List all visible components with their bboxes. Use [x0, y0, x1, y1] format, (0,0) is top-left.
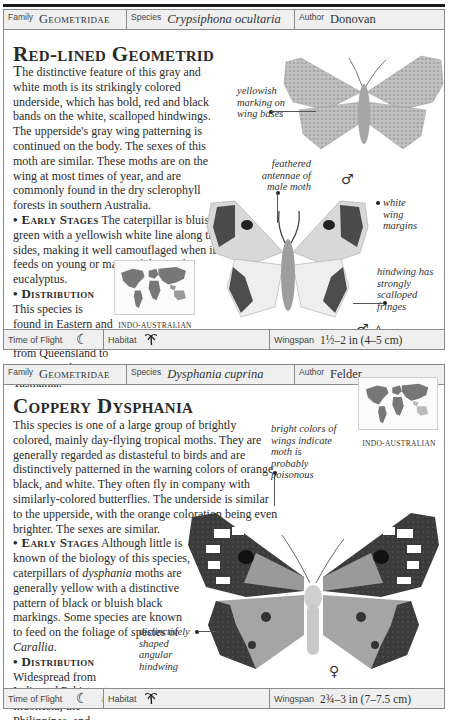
annotation-leader-line — [353, 303, 383, 304]
time-of-flight-label: Time of Flight — [8, 694, 62, 704]
moth-upperside-illustration — [281, 54, 446, 154]
annotation-angular-hindwing: distinctively shaped angular hindwing — [139, 626, 199, 672]
early-stages-heading: Early Stages — [21, 535, 98, 550]
palm-tree-icon — [145, 332, 157, 348]
intro-paragraph: The distinctive feature of this gray and… — [13, 64, 228, 213]
wingspan-value: 2¾–3 in (7–7.5 cm) — [320, 693, 411, 705]
top-rule — [3, 4, 445, 7]
habitat-cell: Habitat — [104, 330, 270, 349]
moth-dysphania-illustration — [186, 505, 441, 675]
author-label: Author — [299, 367, 324, 377]
time-of-flight-label: Time of Flight — [8, 335, 62, 345]
author-label: Author — [299, 12, 324, 22]
species-title: Coppery Dysphania — [13, 394, 193, 419]
annotation-bright-colors: bright colors of wings indicate moth is … — [271, 423, 339, 481]
species-label: Species — [131, 367, 161, 377]
wingspan-label: Wingspan — [274, 694, 314, 704]
time-of-flight-cell: Time of Flight ☾ ☼ — [4, 689, 104, 708]
distribution-map — [358, 377, 438, 430]
annotation-white-margins: white wing margins — [383, 197, 423, 232]
author-cell: Author Donovan — [295, 10, 444, 29]
habitat-label: Habitat — [108, 335, 137, 345]
wingspan-value: 1½–2 in (4–5 cm) — [320, 334, 402, 346]
species-value: Dysphania cuprina — [167, 367, 263, 382]
species-entry-coppery-dysphania: Family Geometridae Species Dysphania cup… — [3, 364, 445, 709]
habitat-cell: Habitat — [104, 689, 270, 708]
annotation-pointer-dot — [383, 301, 387, 305]
family-value: Geometridae — [39, 367, 110, 382]
moth-underside-illustration — [205, 197, 370, 327]
early-stages-heading: Early Stages — [21, 212, 98, 227]
distribution-map — [114, 260, 195, 315]
species-cell: Species Dysphania cuprina — [127, 365, 295, 384]
entry-footer: Time of Flight ☾ ☼ Habitat Wingspan 2¾–3… — [3, 688, 445, 709]
annotation-leader-line — [274, 474, 275, 506]
female-symbol: ♀ — [329, 663, 339, 679]
annotation-scalloped-fringes: hindwing has strongly scalloped fringes — [377, 266, 449, 312]
moon-icon: ☾ — [76, 333, 89, 347]
species-value: Crypsiphona ocultaria — [167, 12, 281, 27]
family-value: Geometridae — [39, 12, 110, 27]
family-label: Family — [8, 12, 33, 22]
entry-footer: Time of Flight ☾ Habitat Wingspan 1½–2 i… — [3, 329, 445, 350]
world-map-icon — [115, 261, 194, 314]
moon-icon: ☾ — [76, 692, 89, 706]
male-symbol: ♂ — [341, 171, 354, 187]
family-cell: Family Geometridae — [4, 365, 127, 384]
entry-header: Family Geometridae Species Crypsiphona o… — [3, 9, 445, 30]
habitat-label: Habitat — [108, 694, 137, 704]
annotation-yellowish-marking: yellowish marking on wing bases — [237, 85, 302, 120]
annotation-leader-line — [271, 111, 316, 112]
wingspan-cell: Wingspan 2¾–3 in (7–7.5 cm) — [270, 689, 444, 708]
species-entry-red-lined-geometrid: Family Geometridae Species Crypsiphona o… — [3, 9, 445, 351]
map-caption: INDO-AUSTRALIAN — [355, 439, 443, 448]
world-map-icon — [359, 378, 437, 429]
species-cell: Species Crypsiphona ocultaria — [127, 10, 295, 29]
annotation-leader-line — [198, 631, 216, 632]
time-of-flight-cell: Time of Flight ☾ — [4, 330, 104, 349]
author-value: Donovan — [330, 12, 376, 27]
species-label: Species — [131, 12, 161, 22]
annotation-pointer-dot — [376, 201, 380, 205]
annotation-feathered-antennae: feathered antennae of male moth — [241, 158, 311, 193]
wingspan-cell: Wingspan 1½–2 in (4–5 cm) — [270, 330, 444, 349]
palm-tree-icon — [145, 691, 157, 707]
family-cell: Family Geometridae — [4, 10, 127, 29]
family-label: Family — [8, 367, 33, 377]
wingspan-label: Wingspan — [274, 335, 314, 345]
